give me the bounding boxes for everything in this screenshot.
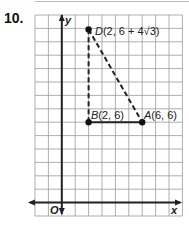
point-a-label: A(6, 6) [143, 109, 177, 121]
y-axis-down-arrow-icon [59, 208, 65, 215]
point-d-name: D [95, 25, 103, 37]
x-axis-label: x [170, 204, 178, 216]
coordinate-plane: y x O D(2, 6 + 4√3) B(2, 6) A(6, 6) [0, 0, 189, 229]
points: D(2, 6 + 4√3) B(2, 6) A(6, 6) [85, 25, 177, 125]
point-b-coords: (2, 6) [98, 109, 124, 121]
origin-label: O [50, 204, 59, 216]
point-a-name: A [143, 109, 151, 121]
point-a-coords: (6, 6) [151, 109, 177, 121]
point-b-label: B(2, 6) [91, 109, 124, 121]
x-axis-left-arrow-icon [28, 200, 35, 206]
point-d-coords: (2, 6 + 4√3) [103, 25, 159, 37]
y-axis-label: y [64, 14, 72, 26]
point-b-name: B [91, 109, 98, 121]
point-d-label: D(2, 6 + 4√3) [95, 25, 159, 37]
point-d [85, 26, 91, 32]
